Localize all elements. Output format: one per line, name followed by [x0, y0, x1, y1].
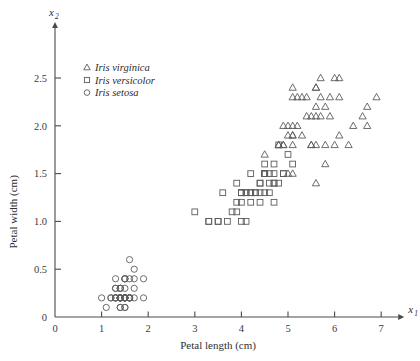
- marker-triangle: [373, 93, 380, 99]
- x-tick-label: 3: [192, 323, 197, 334]
- x-axis-arrowhead: [398, 314, 404, 320]
- marker-circle: [117, 304, 123, 310]
- marker-triangle: [359, 113, 366, 119]
- marker-triangle: [326, 113, 333, 119]
- marker-square: [248, 199, 254, 205]
- marker-triangle: [322, 103, 329, 109]
- y-axis-title: Petal width (cm): [7, 175, 20, 249]
- x-axis-variable-label: x: [407, 303, 413, 315]
- marker-circle: [140, 276, 146, 282]
- x-tick-label: 7: [379, 323, 384, 334]
- x-axis-title: Petal length (cm): [180, 339, 256, 352]
- legend-group: Iris virginicaIris versicolorIris setosa: [84, 62, 156, 98]
- marker-square: [220, 190, 226, 196]
- marker-triangle: [289, 84, 296, 90]
- marker-square: [280, 171, 286, 177]
- marker-square: [290, 161, 296, 167]
- marker-triangle: [312, 84, 319, 90]
- scatter-plot-canvas: 0123456700.51.01.52.02.5 Iris virginicaI…: [0, 0, 420, 361]
- marker-triangle: [317, 74, 324, 80]
- marker-circle: [131, 285, 137, 291]
- marker-circle: [103, 304, 109, 310]
- marker-triangle: [312, 179, 319, 185]
- x-axis-variable-subscript: 1: [414, 309, 418, 318]
- legend-label: Iris virginica: [94, 62, 150, 73]
- marker-square: [206, 219, 212, 225]
- marker-triangle: [364, 103, 371, 109]
- series-iris-versicolor: [192, 142, 296, 224]
- y-tick-label: 1.5: [34, 168, 47, 179]
- marker-circle: [117, 295, 123, 301]
- legend-label: Iris versicolor: [94, 75, 156, 86]
- marker-circle: [98, 295, 104, 301]
- x-tick-label: 6: [332, 323, 337, 334]
- marker-triangle: [350, 122, 357, 128]
- marker-square: [225, 219, 231, 225]
- marker-triangle: [298, 132, 305, 138]
- marker-triangle: [289, 141, 296, 147]
- marker-triangle: [322, 160, 329, 166]
- series-iris-virginica: [261, 74, 380, 186]
- marker-circle: [140, 295, 146, 301]
- data-points-group: [98, 74, 380, 310]
- marker-square: [215, 219, 221, 225]
- y-axis-variable-subscript: 2: [55, 12, 59, 21]
- y-tick-label: 0: [42, 312, 47, 323]
- series-iris-setosa: [98, 257, 146, 311]
- marker-circle: [122, 276, 128, 282]
- y-tick-label: 2.0: [34, 121, 47, 132]
- legend-marker-square: [84, 77, 89, 82]
- y-axis-arrowhead: [52, 22, 58, 28]
- marker-square: [257, 199, 263, 205]
- marker-triangle: [312, 84, 319, 90]
- marker-triangle: [326, 93, 333, 99]
- y-tick-label: 2.5: [34, 73, 47, 84]
- axis-labels-group: Petal length (cm)Petal width (cm)x1x2: [7, 6, 418, 352]
- marker-square: [285, 152, 291, 158]
- legend-label: Iris setosa: [94, 87, 138, 98]
- x-tick-label: 4: [239, 323, 245, 334]
- y-tick-label: 0.5: [34, 264, 47, 275]
- marker-triangle: [317, 93, 324, 99]
- marker-square: [192, 209, 198, 215]
- iris-scatter-figure: 0123456700.51.01.52.02.5 Iris virginicaI…: [0, 0, 420, 361]
- marker-square: [262, 161, 268, 167]
- marker-triangle: [312, 103, 319, 109]
- marker-triangle: [345, 141, 352, 147]
- marker-square: [271, 199, 277, 205]
- x-tick-label: 0: [52, 323, 57, 334]
- marker-triangle: [336, 132, 343, 138]
- ticks-group: 0123456700.51.01.52.02.5: [34, 73, 384, 334]
- marker-square: [271, 161, 277, 167]
- marker-square: [280, 171, 286, 177]
- x-tick-label: 1: [99, 323, 104, 334]
- marker-square: [215, 219, 221, 225]
- marker-circle: [112, 276, 118, 282]
- y-tick-label: 1.0: [34, 216, 47, 227]
- marker-circle: [117, 285, 123, 291]
- marker-triangle: [261, 151, 268, 157]
- legend-marker-triangle: [84, 64, 90, 70]
- marker-square: [257, 180, 263, 186]
- y-axis-variable-label: x: [48, 6, 54, 18]
- marker-square: [257, 180, 263, 186]
- marker-square: [248, 171, 254, 177]
- marker-square: [206, 219, 212, 225]
- marker-circle: [131, 266, 137, 272]
- x-tick-label: 2: [146, 323, 151, 334]
- marker-square: [234, 180, 240, 186]
- marker-triangle: [331, 141, 338, 147]
- x-tick-label: 5: [285, 323, 290, 334]
- legend-marker-circle: [84, 90, 90, 96]
- marker-triangle: [364, 122, 371, 128]
- marker-triangle: [322, 141, 329, 147]
- marker-circle: [126, 257, 132, 263]
- marker-triangle: [336, 93, 343, 99]
